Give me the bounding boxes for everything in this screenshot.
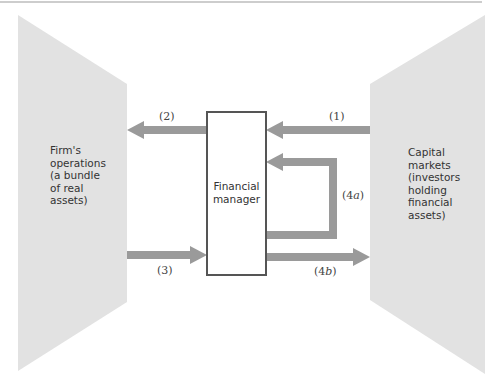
arrow-2-label: (2)	[159, 110, 175, 123]
arrow-3	[127, 246, 207, 264]
financial-manager-label: Financial manager	[207, 180, 266, 206]
arrow-4a	[266, 153, 337, 239]
capital-markets-label: Capital markets (investors holding finan…	[408, 146, 460, 221]
arrow-4b-label: (4b)	[314, 265, 337, 278]
arrow-2	[127, 121, 207, 139]
financial-flow-diagram: Firm's operations (a bundle of real asse…	[0, 0, 496, 386]
firm-operations-label: Firm's operations (a bundle of real asse…	[50, 144, 106, 207]
arrow-3-label: (3)	[157, 264, 173, 277]
arrow-4a-label: (4a)	[342, 189, 364, 202]
arrow-1-label: (1)	[329, 110, 345, 123]
arrow-4b	[266, 248, 370, 266]
arrow-1	[266, 121, 370, 139]
